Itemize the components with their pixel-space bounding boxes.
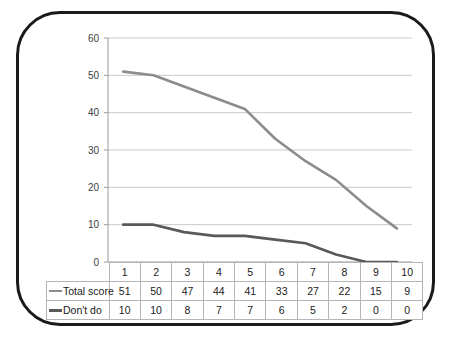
table-cell: 10	[109, 301, 140, 320]
table-column-header: 7	[297, 263, 328, 282]
table-cell: 8	[172, 301, 203, 320]
table-cell: 27	[297, 282, 328, 301]
table-header-row: 12345678910	[47, 263, 423, 282]
y-axis-tick-label: 60	[88, 33, 100, 44]
table-column-header: 2	[140, 263, 171, 282]
table-corner-cell	[47, 263, 110, 282]
series-line-dont-do	[123, 225, 397, 262]
table-cell: 22	[329, 282, 360, 301]
table-column-header: 5	[235, 263, 266, 282]
table-cell: 0	[392, 301, 423, 320]
table-cell: 33	[266, 282, 297, 301]
table-cell: 5	[297, 301, 328, 320]
y-axis-tick-label: 50	[88, 70, 100, 81]
table-cell: 41	[235, 282, 266, 301]
table-cell: 10	[140, 301, 171, 320]
table-cell: 2	[329, 301, 360, 320]
data-table: 12345678910Total score515047444133272215…	[46, 262, 412, 320]
table-cell: 0	[360, 301, 391, 320]
legend-entry-dont-do: Don't do	[47, 301, 110, 320]
table-column-header: 6	[266, 263, 297, 282]
y-axis-tick-label: 20	[88, 182, 100, 193]
table-row: Total score5150474441332722159	[47, 282, 423, 301]
y-axis-tick-label: 30	[88, 145, 100, 156]
table-column-header: 4	[203, 263, 234, 282]
table-cell: 9	[392, 282, 423, 301]
table-cell: 50	[140, 282, 171, 301]
table-cell: 44	[203, 282, 234, 301]
legend-entry-total-score: Total score	[47, 282, 110, 301]
gridlines	[108, 38, 412, 225]
table-cell: 47	[172, 282, 203, 301]
table-column-header: 3	[172, 263, 203, 282]
table-cell: 15	[360, 282, 391, 301]
table-cell: 6	[266, 301, 297, 320]
table-cell: 7	[235, 301, 266, 320]
y-axis-tick-label: 40	[88, 107, 100, 118]
legend-line-swatch	[49, 290, 62, 292]
legend-label: Total score	[63, 286, 114, 298]
series-lines	[123, 72, 397, 262]
legend-line-swatch	[49, 309, 62, 312]
table-column-header: 1	[109, 263, 140, 282]
chart-figure: 6050403020100 12345678910Total score5150…	[0, 0, 453, 338]
y-axis-tick-labels: 6050403020100	[88, 33, 108, 268]
legend-label: Don't do	[63, 305, 102, 317]
table-column-header: 9	[360, 263, 391, 282]
y-axis-tick-label: 10	[88, 219, 100, 230]
table-column-header: 10	[392, 263, 423, 282]
table-column-header: 8	[329, 263, 360, 282]
table-cell: 7	[203, 301, 234, 320]
table-row: Don't do101087765200	[47, 301, 423, 320]
